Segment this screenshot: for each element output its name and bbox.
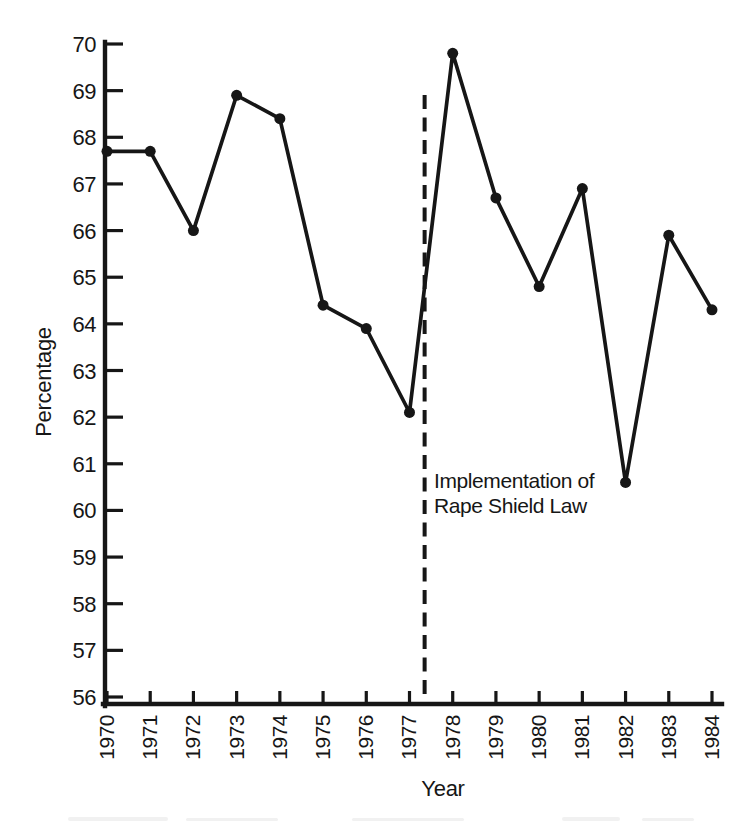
data-point [577,183,588,194]
scanned-chart-figure: 565758596061626364656667686970 197019711… [0,0,753,823]
y-axis-tick-label: 61 [73,452,97,477]
x-axis-ticks: 1970197119721973197419751976197719781979… [95,691,723,760]
data-point [361,323,372,334]
y-axis-tick-label: 65 [73,265,97,290]
x-axis-tick-label: 1974 [268,714,291,760]
x-axis-tick-label: 1975 [311,715,334,760]
y-axis-title: Percentage [31,327,56,437]
y-axis-tick-label: 58 [73,592,97,617]
y-axis-ticks: 565758596061626364656667686970 [73,32,123,710]
data-point [188,225,199,236]
y-axis-tick-label: 70 [73,32,97,57]
annotation-line-1: Implementation of [434,469,595,492]
y-axis-tick-label: 64 [73,312,97,337]
data-point [706,304,717,315]
annotation-line-2: Rape Shield Law [434,494,588,517]
data-point [620,477,631,488]
data-point [231,90,242,101]
y-axis-tick-label: 68 [73,125,97,150]
data-point [145,146,156,157]
x-axis-tick-label: 1970 [95,715,118,760]
data-point [274,113,285,124]
x-axis-tick-label: 1981 [570,715,593,760]
y-axis-tick-label: 67 [73,172,97,197]
line-chart: 565758596061626364656667686970 197019711… [0,0,753,823]
y-axis-tick-label: 62 [73,405,97,430]
caption-remnant [68,817,694,821]
x-axis-tick-label: 1977 [397,715,420,760]
data-point [663,230,674,241]
y-axis-tick-label: 66 [73,219,97,244]
data-points [102,48,718,488]
data-point [447,48,458,59]
y-axis-tick-label: 69 [73,79,97,104]
x-axis-tick-label: 1983 [657,715,680,760]
data-point [318,300,329,311]
x-axis-title: Year [421,776,464,801]
y-axis-tick-label: 59 [73,545,97,570]
x-axis-tick-label: 1976 [354,715,377,760]
data-point [404,407,415,418]
y-axis-tick-label: 57 [73,638,97,663]
data-point [534,281,545,292]
x-axis-tick-label: 1971 [138,715,161,760]
y-axis-tick-label: 56 [73,685,97,710]
y-axis-tick-label: 63 [73,359,97,384]
data-point [102,146,113,157]
x-axis-tick-label: 1972 [181,715,204,760]
x-axis-tick-label: 1973 [225,715,248,760]
data-line [107,53,712,482]
x-axis-tick-label: 1984 [700,714,723,760]
x-axis-tick-label: 1979 [484,715,507,760]
data-point [490,192,501,203]
x-axis-tick-label: 1982 [613,715,636,760]
x-axis-tick-label: 1980 [527,715,550,760]
x-axis-tick-label: 1978 [441,715,464,760]
y-axis-tick-label: 60 [73,498,97,523]
